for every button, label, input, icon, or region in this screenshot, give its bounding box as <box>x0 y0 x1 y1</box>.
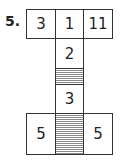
cell-column-lower: 3 <box>55 84 84 114</box>
cell-column-upper: 2 <box>55 38 84 69</box>
cell-top-left: 3 <box>26 9 56 39</box>
cell-bottom-right: 5 <box>83 113 113 155</box>
cell-top-middle: 1 <box>55 9 84 39</box>
problem-number: 5. <box>5 13 20 29</box>
cell-top-right: 11 <box>83 9 113 39</box>
cell-bottom-shaded <box>55 113 84 155</box>
cell-column-shaded <box>55 68 84 85</box>
cell-bottom-left: 5 <box>26 113 56 155</box>
